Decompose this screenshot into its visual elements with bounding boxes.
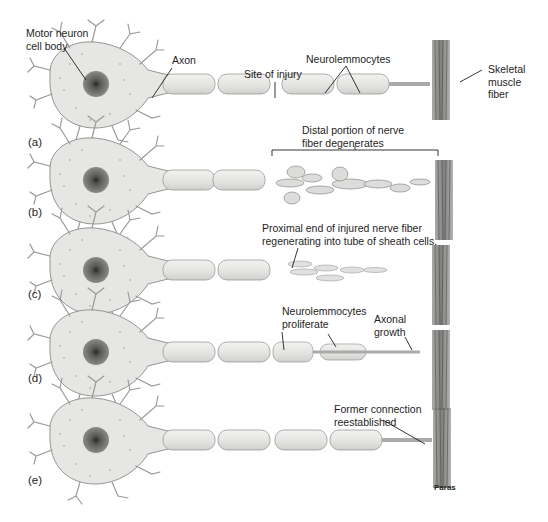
nerve-regeneration-diagram: (a) (b) (c) (d) (e) Motor neuron cell bo…: [0, 0, 548, 522]
label-former-connection-reestablished: Former connection reestablished: [334, 403, 422, 428]
label-site-of-injury: Site of injury: [244, 68, 302, 81]
label-proximal-regenerating: Proximal end of injured nerve fiber rege…: [262, 222, 437, 247]
label-axonal-growth: Axonal growth: [374, 313, 406, 338]
label-skeletal-muscle-fiber: Skeletal muscle fiber: [488, 63, 525, 101]
panel-letter-d: (d): [28, 372, 42, 384]
label-distal-degenerates: Distal portion of nerve fiber degenerate…: [302, 124, 404, 149]
label-axon: Axon: [172, 54, 196, 67]
label-neurolemmocytes-proliferate: Neurolemmocytes proliferate: [282, 305, 367, 330]
panel-letter-a: (a): [28, 136, 42, 148]
label-neurolemmocytes: Neurolemmocytes: [306, 53, 391, 66]
artist-credit: Paras: [434, 482, 456, 495]
panel-letter-b: (b): [28, 206, 42, 218]
panel-letter-e: (e): [28, 474, 42, 486]
label-motor-neuron-cell-body: Motor neuron cell body: [26, 27, 88, 52]
panel-letter-c: (c): [28, 288, 41, 300]
